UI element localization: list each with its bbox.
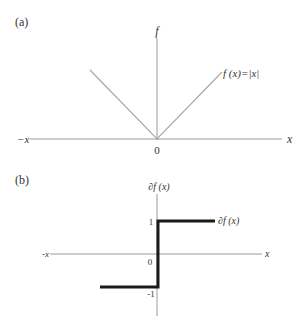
panel-b-tick-1: 1 [149, 217, 154, 227]
panel-b-y-axis-label: ∂f (x) [148, 181, 170, 193]
panel-b-curve-label: ∂f (x) [218, 215, 240, 227]
panel-a: (a) f −x x 0 f (x)=|x| [15, 15, 293, 156]
panel-a-x-pos-label: x [286, 132, 293, 146]
panel-b-x-pos-label: x [264, 248, 270, 259]
panel-a-label: (a) [15, 15, 28, 29]
panel-b-origin-label: 0 [148, 257, 153, 267]
panel-a-y-axis-label: f [155, 24, 160, 38]
panel-a-x-neg-label: −x [17, 133, 29, 145]
abs-curve [90, 70, 222, 139]
panel-b-label: (b) [15, 173, 29, 187]
panel-b-x-neg-label: -x [42, 249, 49, 259]
panel-b-tick-neg1: -1 [147, 289, 155, 299]
panel-a-origin-label: 0 [154, 144, 160, 156]
figure: (a) f −x x 0 f (x)=|x| (b) ∂f (x) -x x 0… [0, 0, 301, 320]
panel-a-curve-label: f (x)=|x| [223, 67, 259, 80]
panel-b: (b) ∂f (x) -x x 0 1 -1 ∂f (x) [15, 173, 270, 316]
